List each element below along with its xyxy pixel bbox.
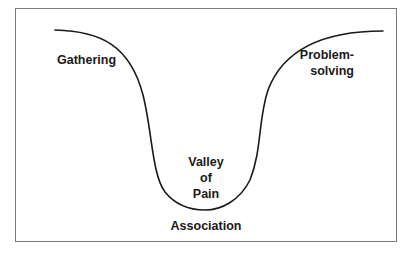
label-gathering: Gathering: [57, 52, 116, 68]
label-valley-of-pain: Valley of Pain: [170, 154, 242, 202]
label-problem-solving-line1: Problem-: [290, 47, 354, 63]
label-association: Association: [150, 218, 262, 234]
label-valley-line3: Pain: [170, 186, 242, 202]
label-problem-solving-line2: solving: [290, 63, 354, 79]
label-valley-line2: of: [170, 170, 242, 186]
label-problem-solving: Problem- solving: [290, 47, 354, 79]
valley-curve: [0, 0, 415, 255]
label-valley-line1: Valley: [170, 154, 242, 170]
